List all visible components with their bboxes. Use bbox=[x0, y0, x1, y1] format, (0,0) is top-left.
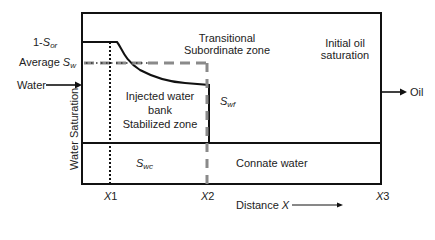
x1-tick-label: X1 bbox=[104, 190, 117, 202]
connate-water-label: Connate water bbox=[236, 157, 308, 169]
x-axis-label: Distance X bbox=[236, 199, 289, 211]
oil-arrowhead-icon bbox=[400, 89, 407, 96]
one-minus-sor-label: 1-Sor bbox=[33, 36, 57, 48]
distance-arrowhead-icon bbox=[337, 203, 343, 208]
x3-tick-label: X3 bbox=[376, 190, 389, 202]
water-inlet-label: Water bbox=[17, 79, 46, 91]
transitional-zone-label: Transitional Subordinate zone bbox=[152, 32, 302, 56]
injected-water-bank-label: Injected water bank Stabilized zone bbox=[120, 89, 200, 131]
x2-tick-label: X2 bbox=[201, 190, 214, 202]
y-axis-label: Water Saturation bbox=[68, 88, 80, 170]
swc-label: Swc bbox=[136, 157, 153, 169]
swf-label: Swf bbox=[220, 95, 235, 107]
initial-oil-saturation-label: Initial oil saturation bbox=[300, 37, 390, 61]
average-sw-label: Average Sw bbox=[19, 56, 76, 68]
oil-outlet-label: Oil bbox=[410, 86, 423, 98]
